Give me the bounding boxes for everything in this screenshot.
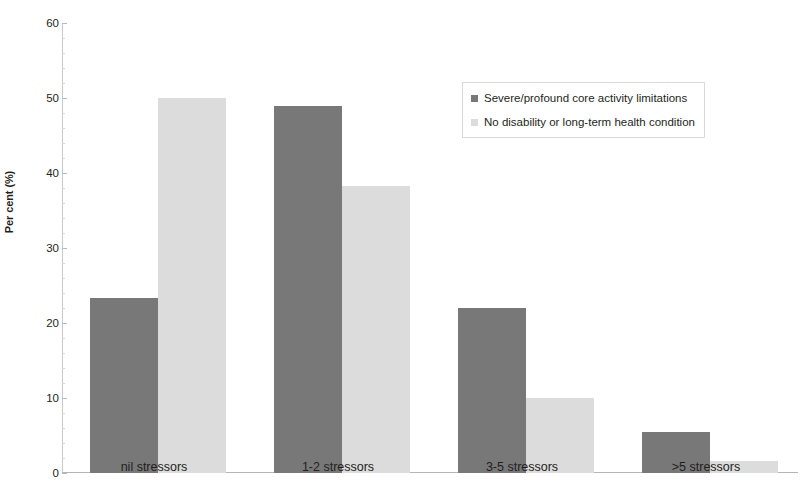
y-axis-minor-tick: [62, 338, 65, 339]
y-axis-tick-label: 20: [37, 316, 59, 330]
legend-swatch-icon: [471, 119, 478, 126]
y-axis-minor-tick: [62, 203, 65, 204]
y-axis-minor-tick: [62, 443, 65, 444]
y-axis-tick-label: 10: [37, 391, 59, 405]
x-axis-category-label: 1-2 stressors: [246, 460, 430, 474]
y-axis-minor-tick: [62, 83, 65, 84]
y-axis-tick-mark: [62, 98, 67, 99]
y-axis-minor-tick: [62, 383, 65, 384]
y-axis-minor-tick: [62, 53, 65, 54]
y-axis-minor-tick: [62, 368, 65, 369]
y-axis-minor-tick: [62, 68, 65, 69]
y-axis-tick-label: 40: [37, 166, 59, 180]
x-axis-category-label: >5 stressors: [614, 460, 798, 474]
y-axis-minor-tick: [62, 413, 65, 414]
y-axis-minor-tick: [62, 458, 65, 459]
y-axis-minor-tick: [62, 263, 65, 264]
y-axis-minor-tick: [62, 188, 65, 189]
y-axis-minor-tick: [62, 113, 65, 114]
y-axis-minor-tick: [62, 143, 65, 144]
legend-label: Severe/profound core activity limitation…: [484, 92, 687, 104]
y-axis-minor-tick: [62, 353, 65, 354]
y-axis-minor-tick: [62, 233, 65, 234]
y-axis-tick-label: 0: [37, 466, 59, 480]
y-axis-tick-mark: [62, 23, 67, 24]
legend-item-0: Severe/profound core activity limitation…: [471, 92, 687, 104]
y-axis-tick-mark: [62, 173, 67, 174]
legend-swatch-icon: [471, 95, 478, 102]
bar-1-1: [342, 186, 410, 473]
x-axis-category-label: nil stressors: [62, 460, 246, 474]
bar-0-0: [90, 298, 158, 474]
x-axis-category-label: 3-5 stressors: [430, 460, 614, 474]
y-axis-tick-mark: [62, 323, 67, 324]
y-axis-minor-tick: [62, 158, 65, 159]
y-axis-minor-tick: [62, 38, 65, 39]
bar-chart: Per cent (%) 0102030405060 nil stressors…: [0, 0, 802, 504]
y-axis-tick-mark: [62, 248, 67, 249]
legend-item-1: No disability or long-term health condit…: [471, 116, 695, 128]
y-axis-tick-label: 50: [37, 91, 59, 105]
y-axis-tick-mark: [62, 398, 67, 399]
y-axis-minor-tick: [62, 293, 65, 294]
y-axis-tick-label: 30: [37, 241, 59, 255]
legend-label: No disability or long-term health condit…: [484, 116, 695, 128]
y-axis-minor-tick: [62, 308, 65, 309]
y-axis-title: Per cent (%): [3, 157, 15, 247]
y-axis-minor-tick: [62, 218, 65, 219]
bar-1-0: [274, 106, 342, 474]
y-axis-minor-tick: [62, 428, 65, 429]
y-axis-tick-label: 60: [37, 16, 59, 30]
y-axis-minor-tick: [62, 128, 65, 129]
bar-2-0: [458, 308, 526, 473]
legend: Severe/profound core activity limitation…: [462, 82, 705, 138]
bar-0-1: [158, 98, 226, 473]
y-axis-minor-tick: [62, 278, 65, 279]
